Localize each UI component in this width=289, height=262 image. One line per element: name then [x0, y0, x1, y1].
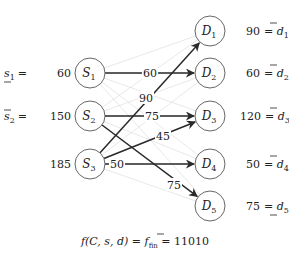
svg-text:45: 45: [156, 130, 170, 143]
demand-label-d5: 75= d5: [246, 200, 289, 215]
node-d3: D3: [195, 101, 225, 131]
svg-text:75: 75: [167, 179, 181, 192]
flow-label: 75: [144, 109, 160, 123]
svg-text:90= d1: 90= d1: [246, 25, 289, 40]
objective-formula: f(C, s, d) = ffin = 11010: [80, 234, 209, 250]
supply-label-s1: 60s1=: [4, 67, 71, 82]
node-d1: D1: [195, 16, 225, 46]
faint-edge: [90, 164, 210, 206]
supply-label-s3: 185: [50, 158, 71, 171]
node-d4: D4: [195, 149, 225, 179]
svg-text:75: 75: [145, 110, 159, 123]
flow-label: 45: [155, 129, 171, 143]
svg-text:50: 50: [110, 158, 124, 171]
svg-text:50= d4: 50= d4: [246, 158, 289, 173]
demand-label-d1: 90= d1: [246, 23, 289, 40]
svg-text:f(C, s, d) = ffin = 11010: f(C, s, d) = ffin = 11010: [80, 235, 209, 250]
node-s2: S2: [75, 101, 105, 131]
svg-text:s2=: s2=: [4, 110, 27, 125]
flow-label: 50: [109, 157, 125, 171]
svg-text:s1=: s1=: [4, 67, 27, 82]
flow-labels: 609075455075: [109, 66, 182, 192]
demand-labels: 90= d160= d2120= d350= d475= d5: [240, 23, 289, 215]
svg-text:60: 60: [57, 67, 71, 80]
node-d5: D5: [195, 191, 225, 221]
flow-label: 60: [142, 66, 158, 80]
node-d2: D2: [195, 58, 225, 88]
demand-label-d3: 120= d3: [240, 108, 289, 125]
svg-text:90: 90: [139, 92, 153, 105]
flow-edge-s3-d3: [104, 122, 195, 158]
supply-label-s2: 150s2=: [4, 110, 71, 125]
svg-text:60= d2: 60= d2: [246, 67, 289, 82]
demand-label-d4: 50= d4: [246, 156, 289, 173]
flow-label: 75: [166, 178, 182, 192]
node-s1: S1: [75, 58, 105, 88]
svg-text:60: 60: [143, 67, 157, 80]
svg-text:75= d5: 75= d5: [246, 200, 289, 215]
node-s3: S3: [75, 149, 105, 179]
flow-label: 90: [138, 91, 154, 105]
svg-text:120= d3: 120= d3: [240, 110, 289, 125]
demand-nodes: D1D2D3D4D5: [195, 16, 225, 221]
transport-flow-diagram: 609075455075 S1S2S3 D1D2D3D4D5 60s1=150s…: [0, 0, 289, 262]
demand-label-d2: 60= d2: [246, 65, 289, 82]
source-supply-labels: 60s1=150s2=185: [4, 67, 71, 171]
svg-text:150: 150: [50, 110, 71, 123]
svg-text:185: 185: [50, 158, 71, 171]
source-nodes: S1S2S3: [75, 58, 105, 179]
